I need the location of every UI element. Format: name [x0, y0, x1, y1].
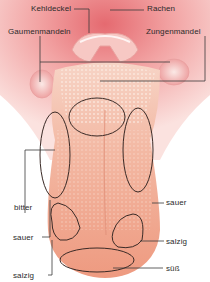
tongue-diagram: Kehldeckel Rachen Gaumenmandeln Zungenma…	[0, 0, 210, 282]
label-bitter: bitter	[14, 203, 32, 212]
left-tonsil	[30, 70, 54, 98]
label-rachen: Rachen	[147, 4, 175, 13]
label-suess: süß	[166, 264, 180, 273]
label-salzig-left: salzig	[13, 271, 34, 280]
label-zungenmandel: Zungenmandel	[146, 27, 201, 36]
label-salzig-right: salzig	[166, 237, 187, 246]
label-gaumenmandeln: Gaumenmandeln	[8, 27, 71, 36]
label-sauer-right: sauer	[166, 198, 187, 207]
label-sauer-left: sauer	[13, 233, 34, 242]
label-kehldeckel: Kehldeckel	[31, 4, 71, 13]
